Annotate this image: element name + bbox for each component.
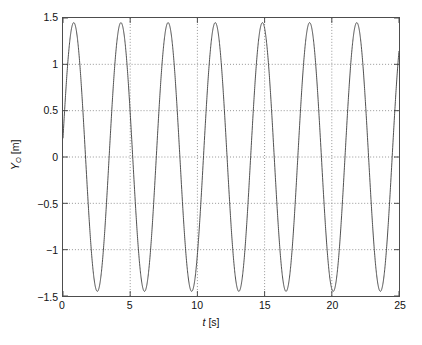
x-axis-unit: [s] bbox=[208, 316, 219, 328]
y-axis-unit: [m] bbox=[9, 140, 21, 155]
y-axis-tick-label: −0.5 bbox=[24, 199, 58, 210]
x-axis-tick-label: 20 bbox=[317, 300, 347, 311]
y-axis-tick-label: 1.5 bbox=[24, 12, 58, 23]
x-axis-title: t [s] bbox=[0, 316, 422, 328]
y-axis-tick-labels: 1.510.50−0.5−1−1.5 bbox=[20, 0, 58, 345]
x-axis-tick-label: 10 bbox=[182, 300, 212, 311]
x-axis-tick-label: 5 bbox=[115, 300, 145, 311]
y-axis-tick-label: 0 bbox=[24, 152, 58, 163]
y-axis-tick-label: 1 bbox=[24, 59, 58, 70]
x-axis-tick-label: 25 bbox=[385, 300, 415, 311]
y-axis-tick-label: −1 bbox=[24, 245, 58, 256]
y-axis-title: YO [m] bbox=[9, 120, 23, 190]
y-axis-subscript: O bbox=[14, 157, 23, 163]
y-axis-symbol: Y bbox=[9, 163, 21, 170]
plot-area bbox=[62, 17, 400, 297]
y-axis-tick-label: 0.5 bbox=[24, 105, 58, 116]
series-line-Y0 bbox=[63, 23, 399, 292]
x-axis-tick-labels: 0510152025 bbox=[0, 300, 422, 316]
x-axis-tick-label: 0 bbox=[47, 300, 77, 311]
data-curve bbox=[63, 18, 399, 296]
x-axis-tick-label: 15 bbox=[250, 300, 280, 311]
figure-canvas: 1.510.50−0.5−1−1.5 0510152025 t [s] YO [… bbox=[0, 0, 422, 345]
